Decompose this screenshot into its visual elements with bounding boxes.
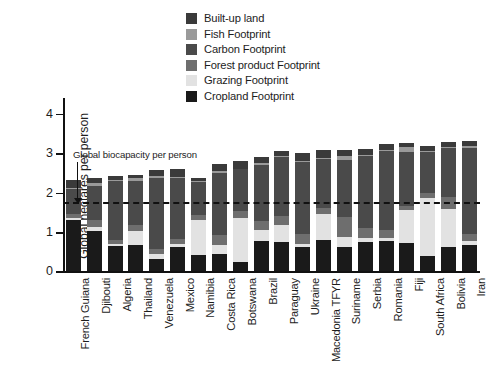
- bar-segment[interactable]: [337, 217, 352, 237]
- bar-segment[interactable]: [358, 242, 373, 271]
- bar-segment[interactable]: [295, 247, 310, 272]
- bar-segment[interactable]: [128, 231, 143, 245]
- bar-segment[interactable]: [379, 230, 394, 239]
- stacked-bar[interactable]: [212, 164, 227, 271]
- bar-segment[interactable]: [191, 255, 206, 272]
- bar-segment[interactable]: [420, 198, 435, 256]
- bar-column[interactable]: [167, 98, 188, 271]
- bar-segment[interactable]: [87, 220, 102, 227]
- bar-column[interactable]: [146, 98, 167, 271]
- bar-segment[interactable]: [212, 235, 227, 245]
- bar-segment[interactable]: [87, 231, 102, 271]
- bar-column[interactable]: [397, 98, 418, 271]
- bar-segment[interactable]: [274, 157, 289, 216]
- bar-segment[interactable]: [170, 169, 185, 178]
- stacked-bar[interactable]: [191, 178, 206, 272]
- bar-segment[interactable]: [254, 165, 269, 221]
- bar-segment[interactable]: [191, 182, 206, 215]
- bar-segment[interactable]: [149, 259, 164, 271]
- bar-segment[interactable]: [254, 221, 269, 230]
- bar-column[interactable]: [188, 98, 209, 271]
- bar-segment[interactable]: [108, 246, 123, 271]
- bar-segment[interactable]: [379, 241, 394, 271]
- bar-segment[interactable]: [316, 214, 331, 240]
- bar-segment[interactable]: [316, 150, 331, 157]
- bar-segment[interactable]: [274, 242, 289, 272]
- bar-segment[interactable]: [441, 148, 456, 197]
- bar-column[interactable]: [334, 98, 355, 271]
- bar-segment[interactable]: [337, 247, 352, 271]
- bar-segment[interactable]: [274, 225, 289, 242]
- bar-segment[interactable]: [274, 216, 289, 225]
- bar-segment[interactable]: [462, 234, 477, 241]
- bar-segment[interactable]: [254, 230, 269, 241]
- bar-column[interactable]: [292, 98, 313, 271]
- stacked-bar[interactable]: [295, 153, 310, 271]
- bar-column[interactable]: [230, 98, 251, 271]
- bar-column[interactable]: [417, 98, 438, 271]
- bar-segment[interactable]: [441, 209, 456, 246]
- bar-column[interactable]: [459, 98, 480, 271]
- stacked-bar[interactable]: [358, 149, 373, 272]
- bar-segment[interactable]: [212, 245, 227, 254]
- legend-item[interactable]: Built-up land: [186, 13, 320, 24]
- bar-column[interactable]: [355, 98, 376, 271]
- stacked-bar[interactable]: [420, 146, 435, 271]
- bar-segment[interactable]: [212, 254, 227, 271]
- bar-segment[interactable]: [212, 164, 227, 171]
- bar-segment[interactable]: [399, 210, 414, 243]
- bar-segment[interactable]: [170, 247, 185, 271]
- bar-segment[interactable]: [462, 245, 477, 272]
- bar-segment[interactable]: [337, 237, 352, 247]
- stacked-bar[interactable]: [170, 169, 185, 272]
- stacked-bar[interactable]: [399, 143, 414, 271]
- legend-item[interactable]: Fish Footprint: [186, 29, 320, 40]
- stacked-bar[interactable]: [274, 151, 289, 271]
- bar-segment[interactable]: [399, 243, 414, 271]
- bar-segment[interactable]: [441, 247, 456, 272]
- stacked-bar[interactable]: [462, 141, 477, 272]
- bar-column[interactable]: [271, 98, 292, 271]
- stacked-bar[interactable]: [379, 144, 394, 271]
- bar-segment[interactable]: [170, 178, 185, 238]
- bar-column[interactable]: [438, 98, 459, 271]
- stacked-bar[interactable]: [149, 170, 164, 272]
- bar-segment[interactable]: [316, 159, 331, 208]
- bar-segment[interactable]: [295, 162, 310, 234]
- stacked-bar[interactable]: [87, 178, 102, 272]
- bar-column[interactable]: [313, 98, 334, 271]
- stacked-bar[interactable]: [254, 157, 269, 271]
- bar-segment[interactable]: [379, 151, 394, 230]
- legend-item[interactable]: Forest product Footprint: [186, 60, 320, 71]
- bar-segment[interactable]: [399, 152, 414, 206]
- bar-column[interactable]: [251, 98, 272, 271]
- bar-segment[interactable]: [358, 228, 373, 238]
- bar-column[interactable]: [63, 98, 84, 271]
- bar-segment[interactable]: [337, 160, 352, 218]
- bar-segment[interactable]: [233, 169, 248, 211]
- bar-segment[interactable]: [233, 262, 248, 272]
- bar-segment[interactable]: [191, 220, 206, 255]
- bar-segment[interactable]: [233, 211, 248, 218]
- bar-segment[interactable]: [420, 152, 435, 192]
- bar-segment[interactable]: [316, 240, 331, 271]
- bar-segment[interactable]: [462, 148, 477, 235]
- bar-segment[interactable]: [358, 156, 373, 228]
- bar-column[interactable]: [209, 98, 230, 271]
- bar-column[interactable]: [376, 98, 397, 271]
- stacked-bar[interactable]: [233, 161, 248, 271]
- bar-segment[interactable]: [233, 161, 248, 168]
- bar-column[interactable]: [84, 98, 105, 271]
- legend-item[interactable]: Carbon Footprint: [186, 44, 320, 55]
- bar-segment[interactable]: [128, 245, 143, 271]
- bar-column[interactable]: [126, 98, 147, 271]
- bar-segment[interactable]: [420, 256, 435, 271]
- bar-segment[interactable]: [66, 180, 81, 188]
- stacked-bar[interactable]: [316, 150, 331, 271]
- stacked-bar[interactable]: [128, 175, 143, 271]
- bar-column[interactable]: [105, 98, 126, 271]
- bar-segment[interactable]: [66, 220, 81, 271]
- bar-segment[interactable]: [295, 234, 310, 244]
- bar-segment[interactable]: [149, 178, 164, 248]
- stacked-bar[interactable]: [441, 142, 456, 272]
